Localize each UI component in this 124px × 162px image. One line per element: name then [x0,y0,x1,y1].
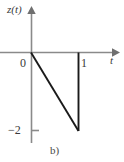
arrow-up-icon [27,6,35,14]
tick-label-x-one: 1 [81,57,87,69]
tick-label-y-minus-two: −2 [8,124,21,136]
figure-caption: b) [50,145,59,156]
y-axis-label: z(t) [7,4,22,15]
tick-label-origin: 0 [20,57,26,69]
plot-canvas [0,0,124,162]
x-axis-label: t [110,55,113,66]
figure-panel: z(t) t 0 1 −2 b) [0,0,124,162]
arrow-right-icon [112,48,120,57]
curve-ramp-segment [31,53,79,132]
